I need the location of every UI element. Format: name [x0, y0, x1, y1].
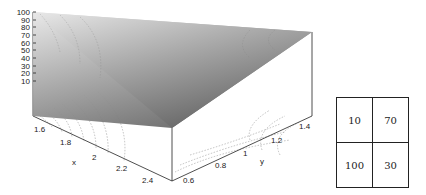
svg-text:1.8: 1.8 — [60, 138, 72, 147]
svg-text:1: 1 — [243, 149, 248, 158]
svg-text:x: x — [72, 158, 76, 167]
svg-text:1.2: 1.2 — [271, 136, 283, 145]
svg-text:10: 10 — [21, 77, 30, 86]
svg-text:2.4: 2.4 — [142, 176, 154, 185]
grid-cell: 70 — [373, 98, 409, 143]
svg-text:2.2: 2.2 — [116, 164, 128, 173]
svg-text:y: y — [260, 157, 264, 166]
x-axis-ticks: 1.6 1.8 2 2.2 2.4 x — [34, 125, 154, 185]
svg-text:0.8: 0.8 — [215, 161, 227, 170]
surface-plot: 100 90 80 70 60 50 40 30 20 10 1.6 1.8 2… — [0, 0, 330, 195]
svg-text:1.6: 1.6 — [34, 125, 46, 134]
grid-cell: 30 — [373, 143, 409, 188]
grid-cell: 100 — [337, 143, 373, 188]
svg-text:0.6: 0.6 — [183, 176, 195, 185]
value-grid: 10 70 100 30 — [336, 97, 409, 188]
svg-text:1.4: 1.4 — [299, 122, 311, 131]
svg-text:2: 2 — [92, 153, 97, 162]
grid-cell: 10 — [337, 98, 373, 143]
y-axis-ticks: 0.6 0.8 1 1.2 1.4 y — [183, 122, 311, 185]
